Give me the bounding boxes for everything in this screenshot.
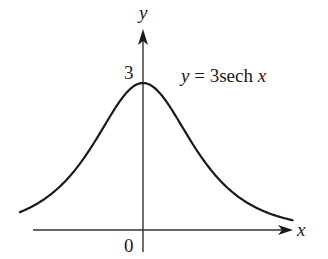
peak-tick-label: 3 [124,62,134,83]
curve-equation-label: y = 3sech x [179,65,267,86]
sech-curve [20,83,293,220]
origin-label: 0 [124,235,134,256]
y-axis-label: y [137,2,148,23]
x-axis-label: x [296,219,306,240]
sech-graph: y x 0 3 y = 3sech x [0,0,328,259]
